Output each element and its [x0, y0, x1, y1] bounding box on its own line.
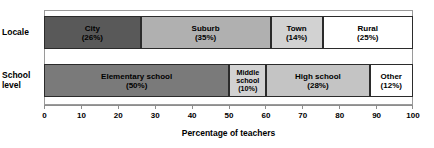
row-label-school-level: School level [2, 70, 42, 90]
segment-elementary-school-percent: (50%) [126, 81, 147, 90]
x-tick-90 [376, 105, 377, 109]
segment-city-percent: (26%) [82, 33, 103, 42]
segment-rural-label: Rural [358, 24, 378, 33]
x-tick-40 [192, 105, 193, 109]
x-tick-label-40: 40 [188, 111, 197, 120]
segment-middle-school-percent: (10%) [238, 85, 257, 93]
x-tick-70 [302, 105, 303, 109]
segment-other-label: Other [381, 72, 402, 81]
x-tick-label-10: 10 [77, 111, 86, 120]
segment-other-percent: (12%) [381, 81, 402, 90]
segment-town-label: Town [286, 24, 306, 33]
x-tick-label-90: 90 [372, 111, 381, 120]
segment-rural[interactable]: Rural (25%) [323, 16, 413, 49]
segment-suburb-percent: (35%) [195, 33, 216, 42]
x-tick-30 [155, 105, 156, 109]
segment-high-school-label: High school [295, 72, 341, 81]
x-tick-80 [339, 105, 340, 109]
segment-town-percent: (14%) [286, 33, 307, 42]
row-label-locale-text: Locale [2, 27, 42, 37]
x-tick-label-70: 70 [298, 111, 307, 120]
segment-elementary-school-label: Elementary school [101, 72, 172, 81]
segment-suburb[interactable]: Suburb (35%) [141, 16, 271, 49]
segment-middle-school[interactable]: Middle school (10%) [229, 64, 266, 97]
x-axis-title: Percentage of teachers [44, 128, 413, 138]
segment-city[interactable]: City (26%) [44, 16, 141, 49]
x-tick-50 [229, 105, 230, 109]
segment-rural-percent: (25%) [357, 33, 378, 42]
segment-high-school[interactable]: High school (28%) [266, 64, 369, 97]
x-tick-label-50: 50 [225, 111, 234, 120]
segment-high-school-percent: (28%) [307, 81, 328, 90]
x-tick-60 [265, 105, 266, 109]
x-tick-100 [412, 105, 413, 109]
segment-other[interactable]: Other (12%) [370, 64, 413, 97]
x-tick-20 [118, 105, 119, 109]
x-tick-10 [81, 105, 82, 109]
x-tick-label-30: 30 [151, 111, 160, 120]
segment-town[interactable]: Town (14%) [271, 16, 323, 49]
row-label-locale: Locale [2, 27, 42, 37]
segment-city-label: City [85, 24, 100, 33]
x-tick-label-0: 0 [42, 111, 46, 120]
x-tick-label-60: 60 [261, 111, 270, 120]
segment-suburb-label: Suburb [192, 24, 220, 33]
x-tick-label-100: 100 [406, 111, 419, 120]
x-tick-label-80: 80 [335, 111, 344, 120]
row-label-school-line1: School [2, 70, 42, 80]
x-tick-0 [44, 105, 45, 109]
stacked-bar-chart: Locale School level City (26%) Suburb (3… [0, 0, 434, 148]
x-tick-label-20: 20 [114, 111, 123, 120]
row-label-school-line2: level [2, 80, 42, 90]
segment-elementary-school[interactable]: Elementary school (50%) [44, 64, 229, 97]
